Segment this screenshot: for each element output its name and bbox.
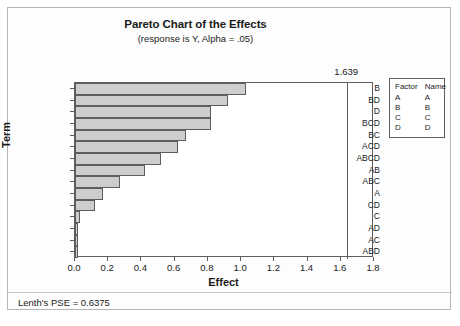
legend-cell-factor: C xyxy=(395,113,425,123)
bar-bcd xyxy=(75,118,211,130)
bar-row xyxy=(75,235,372,247)
bar-row xyxy=(75,223,372,235)
bar-row xyxy=(75,106,372,118)
bar-row xyxy=(75,95,372,107)
y-axis-label: Term xyxy=(0,122,12,148)
legend-header-row: Factor Name xyxy=(395,82,453,93)
bar-row xyxy=(75,153,372,165)
bar-row xyxy=(75,200,372,212)
y-tick-label-bd: BD xyxy=(368,95,380,104)
legend-row: CC xyxy=(395,113,453,123)
y-tick-label-d: D xyxy=(374,107,380,116)
x-tick-label: 1.4 xyxy=(300,262,313,273)
bar-bc xyxy=(75,130,186,142)
x-tick-mark xyxy=(174,257,175,261)
bar-d xyxy=(75,106,211,118)
x-tick-label: 0.2 xyxy=(101,262,114,273)
legend-header-factor: Factor xyxy=(395,82,425,93)
lenths-pse-note: Lenth's PSE = 0.6375 xyxy=(18,297,110,308)
title-block: Pareto Chart of the Effects (response is… xyxy=(8,17,383,45)
legend-cell-name: A xyxy=(425,93,453,103)
y-tick-mark xyxy=(70,205,74,206)
y-tick-mark xyxy=(70,88,74,89)
y-tick-mark xyxy=(70,123,74,124)
factor-legend: Factor Name AABBCCDD xyxy=(389,78,445,138)
y-tick-mark xyxy=(70,111,74,112)
legend-row: BB xyxy=(395,103,453,113)
bar-abc xyxy=(75,176,120,188)
x-tick-label: 1.6 xyxy=(333,262,346,273)
y-tick-mark xyxy=(70,228,74,229)
bar-bd xyxy=(75,95,228,107)
y-tick-label-bcd: BCD xyxy=(362,118,380,127)
x-tick-mark xyxy=(107,257,108,261)
y-tick-mark xyxy=(70,193,74,194)
bar-row xyxy=(75,246,372,258)
legend-cell-factor: B xyxy=(395,103,425,113)
y-tick-label-a: A xyxy=(374,188,380,197)
legend-cell-name: B xyxy=(425,103,453,113)
y-tick-mark xyxy=(70,100,74,101)
legend-cell-name: C xyxy=(425,113,453,123)
legend-table: Factor Name AABBCCDD xyxy=(395,82,453,133)
x-tick-mark xyxy=(373,257,374,261)
x-tick-label: 0.0 xyxy=(67,262,80,273)
bar-ac xyxy=(75,235,78,247)
y-tick-mark xyxy=(70,170,74,171)
x-tick-label: 0.8 xyxy=(200,262,213,273)
bar-abd xyxy=(75,246,78,258)
legend-body: AABBCCDD xyxy=(395,93,453,133)
pareto-chart-figure: Pareto Chart of the Effects (response is… xyxy=(7,7,451,310)
bar-acd xyxy=(75,141,178,153)
x-tick-label: 0.4 xyxy=(134,262,147,273)
y-tick-label-abc: ABC xyxy=(363,177,380,186)
x-axis-label: Effect xyxy=(74,276,373,288)
x-tick-label: 1.0 xyxy=(234,262,247,273)
bar-row xyxy=(75,165,372,177)
y-tick-mark xyxy=(70,216,74,217)
bar-ab xyxy=(75,165,145,177)
x-tick-mark xyxy=(207,257,208,261)
y-tick-label-ad: AD xyxy=(368,223,380,232)
plot-area xyxy=(74,82,373,257)
bar-row xyxy=(75,130,372,142)
bar-ad xyxy=(75,223,78,235)
y-tick-mark xyxy=(70,135,74,136)
legend-cell-name: D xyxy=(425,123,453,133)
bar-b xyxy=(75,83,246,95)
y-tick-label-b: B xyxy=(374,83,380,92)
bar-cd xyxy=(75,200,95,212)
y-tick-mark xyxy=(70,251,74,252)
y-tick-label-cd: CD xyxy=(368,200,380,209)
x-tick-mark xyxy=(240,257,241,261)
x-tick-mark xyxy=(307,257,308,261)
bar-a xyxy=(75,188,103,200)
y-tick-label-abcd: ABCD xyxy=(356,153,380,162)
y-tick-mark xyxy=(70,240,74,241)
legend-cell-factor: A xyxy=(395,93,425,103)
bar-row xyxy=(75,188,372,200)
x-tick-label: 1.2 xyxy=(267,262,280,273)
bar-row xyxy=(75,83,372,95)
footer-separator xyxy=(8,292,452,293)
bar-c xyxy=(75,211,80,223)
x-tick-mark xyxy=(140,257,141,261)
x-tick-mark xyxy=(340,257,341,261)
bar-row xyxy=(75,141,372,153)
y-tick-mark xyxy=(70,158,74,159)
x-tick-label: 1.8 xyxy=(366,262,379,273)
bar-row xyxy=(75,176,372,188)
y-tick-label-ab: AB xyxy=(369,165,380,174)
y-tick-label-ac: AC xyxy=(368,235,380,244)
chart-title: Pareto Chart of the Effects xyxy=(8,17,383,31)
y-tick-label-c: C xyxy=(374,212,380,221)
reference-line xyxy=(347,82,348,259)
x-tick-mark xyxy=(74,257,75,261)
y-tick-label-abd: ABD xyxy=(363,247,380,256)
y-tick-label-acd: ACD xyxy=(362,142,380,151)
y-tick-label-bc: BC xyxy=(368,130,380,139)
x-tick-mark xyxy=(273,257,274,261)
y-tick-mark xyxy=(70,146,74,147)
bar-row xyxy=(75,211,372,223)
y-tick-mark xyxy=(70,181,74,182)
